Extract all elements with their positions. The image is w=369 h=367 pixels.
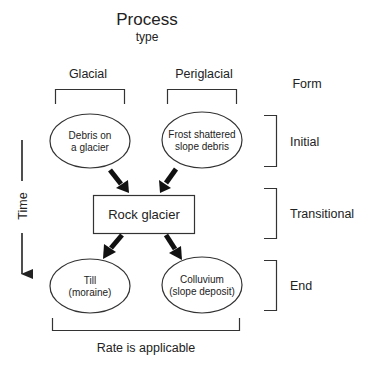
rate-bracket [53,318,240,331]
node-text-line1: Frost shattered [168,129,235,140]
node-text-line2: slope debris [175,141,229,152]
glacial-bracket [56,90,125,105]
node-text-line1: Till [84,275,96,286]
stage-label-transitional: Transitional [290,207,354,221]
node-debris-on-glacier: Debris on a glacier [50,114,130,168]
bracket-transitional [264,189,277,239]
node-rock-glacier: Rock glacier [94,196,195,234]
node-frost-shattered-slope-debris: Frost shattered slope debris [162,112,242,168]
stage-label-initial: Initial [290,135,319,149]
periglacial-bracket [168,90,237,105]
arrow-glacial-to-rock-glacier [110,170,129,193]
time-axis-label: Time [16,192,30,219]
arrow-rock-glacier-to-till [103,235,122,259]
node-colluvium: Colluvium (slope deposit) [162,257,242,313]
node-text-line2: (moraine) [69,287,112,298]
process-subtitle: type [136,30,159,44]
node-text-line2: a glacier [71,142,109,153]
form-label: Form [292,77,321,91]
arrow-periglacial-to-rock-glacier [159,169,176,193]
node-text: Rock glacier [108,207,180,222]
rate-label: Rate is applicable [97,341,196,355]
column-label-periglacial: Periglacial [175,67,233,81]
stage-label-end: End [290,279,312,293]
rock-glacier-diagram: Process type Glacial Periglacial Form De… [0,0,369,367]
process-title: Process [116,10,177,29]
arrow-rock-glacier-to-colluvium [166,235,182,260]
node-text-line1: Colluvium [180,274,224,285]
bracket-end [264,261,277,311]
node-till: Till (moraine) [50,259,130,313]
node-text-line2: (slope deposit) [169,286,235,297]
node-text-line1: Debris on [69,130,112,141]
column-label-glacial: Glacial [69,67,107,81]
bracket-initial [264,116,277,167]
